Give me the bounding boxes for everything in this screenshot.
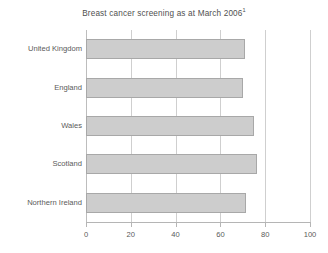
- bar-united-kingdom[interactable]: [86, 39, 245, 59]
- x-axis-tick-40: [176, 222, 177, 227]
- y-axis-label-northern-ireland: Northern Ireland: [2, 199, 82, 207]
- x-axis-tick-label-80: 80: [261, 231, 269, 239]
- y-axis-label-wales: Wales: [2, 122, 82, 130]
- x-axis-tick-0: [86, 222, 87, 227]
- bar-chart: Breast cancer screening as at March 2006…: [0, 0, 328, 253]
- y-axis-label-england: England: [2, 84, 82, 92]
- chart-title-text: Breast cancer screening as at March 2006: [82, 9, 242, 18]
- gridline-100: [310, 30, 311, 222]
- bar-scotland[interactable]: [86, 154, 257, 174]
- x-axis-tick-80: [265, 222, 266, 227]
- x-axis-tick-label-0: 0: [84, 231, 88, 239]
- y-axis-label-united-kingdom: United Kingdom: [2, 45, 82, 53]
- x-axis-tick-60: [220, 222, 221, 227]
- plot-area: [86, 30, 310, 222]
- x-axis-tick-label-100: 100: [304, 231, 317, 239]
- bar-row: [86, 184, 310, 222]
- bar-row: [86, 107, 310, 145]
- x-axis-tick-label-40: 40: [171, 231, 179, 239]
- bar-row: [86, 30, 310, 68]
- bar-wales[interactable]: [86, 116, 254, 136]
- chart-title: Breast cancer screening as at March 2006…: [0, 9, 328, 18]
- bar-row: [86, 68, 310, 106]
- x-axis-tick-20: [131, 222, 132, 227]
- y-axis-labels: United KingdomEnglandWalesScotlandNorthe…: [0, 30, 82, 222]
- x-axis-tick-100: [310, 222, 311, 227]
- bar-england[interactable]: [86, 78, 243, 98]
- y-axis-label-scotland: Scotland: [2, 160, 82, 168]
- chart-title-footnote-marker: 1: [243, 7, 246, 13]
- bar-row: [86, 145, 310, 183]
- x-axis-line: [86, 222, 311, 223]
- x-axis-tick-label-60: 60: [216, 231, 224, 239]
- bar-northern-ireland[interactable]: [86, 193, 246, 213]
- x-axis-tick-label-20: 20: [127, 231, 135, 239]
